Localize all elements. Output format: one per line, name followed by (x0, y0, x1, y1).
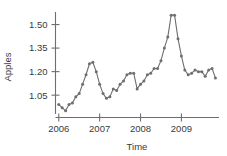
data-point-marker (153, 67, 156, 70)
x-tick-label-group: 2006200720082009 (48, 123, 192, 134)
x-tick-label: 2007 (89, 123, 110, 134)
data-point-marker (211, 67, 214, 70)
data-point-marker (88, 62, 91, 65)
data-point-marker (173, 14, 176, 17)
data-point-marker (112, 87, 115, 90)
data-point-marker (122, 80, 125, 83)
data-point-marker (183, 69, 186, 72)
data-point-marker (194, 69, 197, 72)
data-point-marker (129, 72, 132, 75)
data-point-marker (156, 67, 159, 70)
x-axis: 2006200720082009 Time (48, 114, 219, 153)
y-tick-label: 1.20 (29, 66, 48, 77)
y-tick-label: 1.35 (29, 42, 48, 53)
data-point-marker (142, 80, 145, 83)
plot-area (57, 14, 217, 113)
series-line-apples (59, 15, 216, 111)
data-point-marker (57, 103, 60, 106)
y-tick-label: 1.05 (29, 90, 48, 101)
line-chart: 1.051.201.351.50 Apples 2006200720082009… (0, 0, 227, 156)
data-point-marker (146, 73, 149, 76)
data-point-marker (207, 69, 210, 72)
data-point-marker (105, 97, 108, 100)
x-tick-label: 2008 (130, 123, 151, 134)
data-point-marker (74, 95, 77, 98)
data-point-marker (187, 73, 190, 76)
data-point-marker (115, 89, 118, 92)
data-point-marker (166, 36, 169, 39)
data-point-marker (108, 95, 111, 98)
data-point-marker (95, 70, 98, 73)
data-point-marker (125, 73, 128, 76)
data-point-marker (214, 76, 217, 79)
data-point-marker (170, 14, 173, 17)
data-point-marker (159, 59, 162, 62)
data-point-marker (149, 72, 152, 75)
data-point-marker (71, 102, 74, 105)
data-point-marker (98, 83, 101, 86)
data-point-marker (81, 83, 84, 86)
data-point-marker (78, 92, 81, 95)
x-tick-label: 2006 (48, 123, 69, 134)
data-point-marker (136, 87, 139, 90)
data-point-marker (180, 54, 183, 57)
data-point-marker (102, 92, 105, 95)
data-point-marker (64, 109, 67, 112)
chart-container: 1.051.201.351.50 Apples 2006200720082009… (0, 0, 227, 156)
data-point-marker (119, 83, 122, 86)
data-point-marker (91, 61, 94, 64)
y-axis: 1.051.201.351.50 Apples (2, 12, 60, 114)
data-point-marker (61, 106, 64, 109)
data-point-marker (85, 73, 88, 76)
y-axis-title: Apples (2, 52, 13, 81)
y-tick-label: 1.50 (29, 19, 48, 30)
y-tick-label-group: 1.051.201.351.50 (29, 19, 48, 101)
data-point-marker (139, 83, 142, 86)
data-point-marker (197, 70, 200, 73)
data-point-marker (190, 72, 193, 75)
x-tick-label: 2009 (171, 123, 192, 134)
x-axis-title: Time (127, 141, 148, 152)
data-point-marker (163, 47, 166, 50)
data-point-marker (177, 37, 180, 40)
data-point-marker (204, 75, 207, 78)
series-marker-group (57, 14, 217, 113)
data-point-marker (67, 103, 70, 106)
data-point-marker (200, 70, 203, 73)
data-point-marker (132, 72, 135, 75)
